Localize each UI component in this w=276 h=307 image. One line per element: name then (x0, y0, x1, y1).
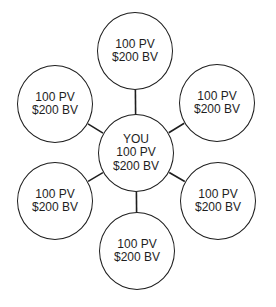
connector-lower-right (169, 172, 185, 181)
connector-upper-left (88, 124, 103, 133)
node-bv: $200 BV (195, 201, 241, 215)
center-node-you: YOU 100 PV $200 BV (98, 114, 174, 192)
node-lower-left: 100 PV $200 BV (17, 162, 93, 240)
node-lower-right: 100 PV $200 BV (180, 162, 256, 240)
node-bv: $200 BV (114, 251, 160, 265)
connector-lower-left (88, 173, 103, 182)
node-bv: $200 BV (112, 51, 158, 65)
node-pv: 100 PV (35, 188, 74, 202)
node-pv: 100 PV (116, 146, 155, 160)
node-bv: $200 BV (32, 201, 78, 215)
node-bv: $200 BV (113, 160, 159, 174)
connector-upper-right (169, 123, 184, 133)
node-top: 100 PV $200 BV (97, 12, 173, 90)
node-upper-left: 100 PV $200 BV (17, 65, 93, 143)
node-pv: 100 PV (198, 188, 237, 202)
node-label: YOU (123, 133, 149, 147)
node-bv: $200 BV (32, 104, 78, 118)
node-upper-right: 100 PV $200 BV (179, 64, 255, 142)
node-pv: 100 PV (197, 90, 236, 104)
node-pv: 100 PV (115, 38, 154, 52)
node-pv: 100 PV (35, 91, 74, 105)
node-bottom: 100 PV $200 BV (99, 212, 175, 290)
node-bv: $200 BV (194, 103, 240, 117)
downline-diagram: YOU 100 PV $200 BV 100 PV $200 BV 100 PV… (0, 0, 276, 307)
node-pv: 100 PV (117, 238, 156, 252)
